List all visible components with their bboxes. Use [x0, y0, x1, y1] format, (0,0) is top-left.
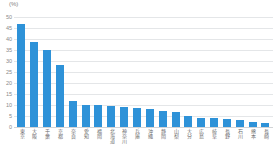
- x-axis-tick-label: 山梨: [173, 129, 178, 156]
- x-axis-label-slot: 広島: [195, 129, 208, 156]
- x-axis-tick-label: 長崎: [263, 129, 268, 156]
- bar-slot: [131, 17, 144, 127]
- x-axis-tick-label: 静岡: [160, 129, 165, 156]
- bar-slot: [118, 17, 131, 127]
- x-axis-label-slot: 石川: [233, 129, 246, 156]
- bar[interactable]: [120, 107, 128, 127]
- bar[interactable]: [172, 112, 180, 127]
- bar-series: [14, 17, 273, 127]
- bar[interactable]: [69, 101, 77, 127]
- x-axis-tick-label: 大阪: [32, 129, 37, 156]
- bar[interactable]: [17, 24, 25, 127]
- bar-slot: [233, 17, 246, 127]
- x-axis-tick-label: 長野: [224, 129, 229, 156]
- x-axis-tick-label: 大分: [186, 129, 191, 156]
- x-axis-label-slot: 福岡: [92, 129, 105, 156]
- x-axis-label-slot: 千葉: [41, 129, 54, 156]
- bar-slot: [105, 17, 118, 127]
- bar[interactable]: [56, 65, 64, 127]
- bar-slot: [156, 17, 169, 127]
- x-axis-label-slot: 静岡: [156, 129, 169, 156]
- bar[interactable]: [107, 106, 115, 127]
- x-axis-tick-label: 沖縄: [147, 129, 152, 156]
- y-axis-tick-label: 5: [9, 113, 12, 119]
- bar[interactable]: [223, 119, 231, 127]
- bar-slot: [246, 17, 259, 127]
- bar-slot: [195, 17, 208, 127]
- bar-chart: (%) 50454035302520151050 東京大阪千葉京都奈良愛知福岡北…: [0, 0, 275, 156]
- x-axis-labels: 東京大阪千葉京都奈良愛知福岡北海道神奈川兵庫沖縄静岡山梨大分広島岐阜長野石川熊本…: [14, 129, 273, 156]
- bar-slot: [41, 17, 54, 127]
- bar[interactable]: [197, 118, 205, 127]
- x-axis-label-slot: 奈良: [66, 129, 79, 156]
- x-axis-label-slot: 熊本: [246, 129, 259, 156]
- x-axis-label-slot: 岐阜: [208, 129, 221, 156]
- bar-slot: [182, 17, 195, 127]
- y-axis-tick-label: 10: [6, 102, 12, 108]
- bar-slot: [221, 17, 234, 127]
- x-axis-tick-label: 熊本: [250, 129, 255, 156]
- bar-slot: [66, 17, 79, 127]
- x-axis-tick-label: 北海道: [109, 129, 114, 156]
- y-axis-tick-label: 20: [6, 80, 12, 86]
- x-axis-tick-label: 愛知: [83, 129, 88, 156]
- bar[interactable]: [249, 122, 257, 128]
- x-axis-label-slot: 山梨: [169, 129, 182, 156]
- bar[interactable]: [94, 105, 102, 127]
- y-axis-tick-label: 15: [6, 91, 12, 97]
- x-axis-tick-label: 岐阜: [211, 129, 216, 156]
- x-axis-label-slot: 長崎: [259, 129, 272, 156]
- bar[interactable]: [261, 123, 269, 127]
- bar-slot: [169, 17, 182, 127]
- x-axis-tick-label: 京都: [57, 129, 62, 156]
- bar-slot: [92, 17, 105, 127]
- bar-slot: [79, 17, 92, 127]
- bar[interactable]: [82, 105, 90, 127]
- bar[interactable]: [146, 109, 154, 127]
- x-axis-label-slot: 北海道: [105, 129, 118, 156]
- bar-slot: [28, 17, 41, 127]
- x-axis-label-slot: 大分: [182, 129, 195, 156]
- plot-area: 50454035302520151050: [14, 17, 273, 127]
- x-axis-label-slot: 沖縄: [143, 129, 156, 156]
- bar[interactable]: [159, 111, 167, 128]
- gridline: [14, 127, 273, 128]
- bar[interactable]: [133, 108, 141, 127]
- x-axis-label-slot: 大阪: [28, 129, 41, 156]
- bar[interactable]: [43, 50, 51, 127]
- bar[interactable]: [184, 116, 192, 127]
- y-axis-tick-label: 40: [6, 36, 12, 42]
- bar-slot: [143, 17, 156, 127]
- bar[interactable]: [30, 42, 38, 127]
- x-axis-label-slot: 神奈川: [118, 129, 131, 156]
- x-axis-label-slot: 京都: [54, 129, 67, 156]
- y-axis-tick-label: 45: [6, 25, 12, 31]
- bar[interactable]: [236, 120, 244, 127]
- y-axis-tick-label: 30: [6, 58, 12, 64]
- x-axis-label-slot: 愛知: [79, 129, 92, 156]
- x-axis-label-slot: 長野: [221, 129, 234, 156]
- y-axis-tick-label: 0: [9, 124, 12, 130]
- bar-slot: [208, 17, 221, 127]
- y-axis-tick-label: 35: [6, 47, 12, 53]
- bar-slot: [15, 17, 28, 127]
- x-axis-tick-label: 石川: [237, 129, 242, 156]
- y-axis-unit-label: (%): [9, 1, 18, 8]
- y-axis-tick-label: 50: [6, 14, 12, 20]
- x-axis-label-slot: 東京: [15, 129, 28, 156]
- y-axis-tick-label: 25: [6, 69, 12, 75]
- x-axis-tick-label: 広島: [199, 129, 204, 156]
- x-axis-tick-label: 東京: [19, 129, 24, 156]
- x-axis-tick-label: 福岡: [96, 129, 101, 156]
- x-axis-tick-label: 千葉: [44, 129, 49, 156]
- bar-slot: [54, 17, 67, 127]
- bar[interactable]: [210, 118, 218, 127]
- bar-slot: [259, 17, 272, 127]
- x-axis-tick-label: 神奈川: [121, 129, 126, 156]
- x-axis-tick-label: 奈良: [70, 129, 75, 156]
- x-axis-tick-label: 兵庫: [134, 129, 139, 156]
- x-axis-label-slot: 兵庫: [131, 129, 144, 156]
